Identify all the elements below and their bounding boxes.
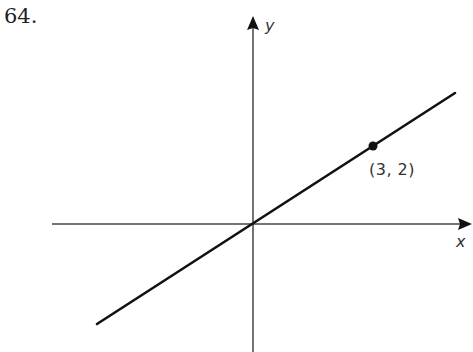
y-axis-label: y: [265, 16, 274, 35]
x-axis-label: x: [456, 232, 465, 251]
graph-line: [97, 93, 455, 324]
y-axis-arrow-icon: [247, 16, 259, 30]
x-axis-arrow-icon: [458, 218, 472, 230]
point-marker: [369, 142, 378, 151]
point-label: (3, 2): [369, 160, 415, 179]
